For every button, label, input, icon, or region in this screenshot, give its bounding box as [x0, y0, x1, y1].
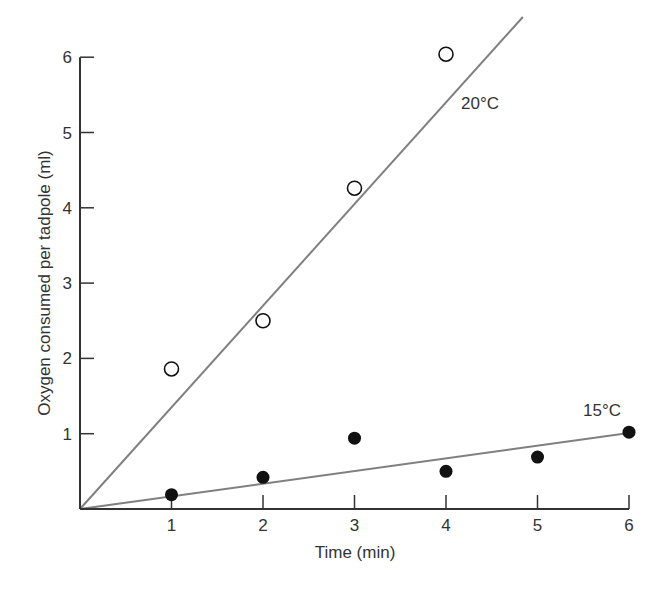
x-tick-label: 3 [350, 516, 359, 535]
data-markers [165, 47, 636, 501]
x-tick-label: 6 [624, 516, 633, 535]
x-tick-label: 1 [167, 516, 176, 535]
axes: 123456123456 [63, 48, 634, 535]
x-tick-label: 4 [441, 516, 450, 535]
filled-circle-marker [348, 432, 361, 445]
open-circle-marker [348, 181, 362, 195]
x-axis-title: Time (min) [315, 543, 396, 562]
y-tick-label: 2 [63, 349, 72, 368]
series-label-15c: 15°C [583, 401, 621, 420]
series-label-20c: 20°C [461, 94, 499, 113]
filled-circle-marker [165, 488, 178, 501]
open-circle-marker [165, 362, 179, 376]
x-tick-label: 5 [533, 516, 542, 535]
filled-circle-marker [531, 451, 544, 464]
y-tick-label: 5 [63, 124, 72, 143]
open-circle-marker [439, 47, 453, 61]
y-tick-label: 6 [63, 48, 72, 67]
x-tick-label: 2 [258, 516, 267, 535]
filled-circle-marker [623, 426, 636, 439]
fit-line [80, 17, 523, 509]
open-circle-marker [256, 314, 270, 328]
filled-circle-marker [440, 465, 453, 478]
scatter-chart: 123456123456 20°C15°C Time (min) Oxygen … [0, 0, 670, 593]
y-tick-label: 1 [63, 425, 72, 444]
y-axis-title: Oxygen consumed per tadpole (ml) [35, 150, 54, 416]
labels: 20°C15°C [461, 94, 621, 420]
filled-circle-marker [257, 471, 270, 484]
y-tick-label: 3 [63, 274, 72, 293]
y-tick-label: 4 [63, 199, 72, 218]
